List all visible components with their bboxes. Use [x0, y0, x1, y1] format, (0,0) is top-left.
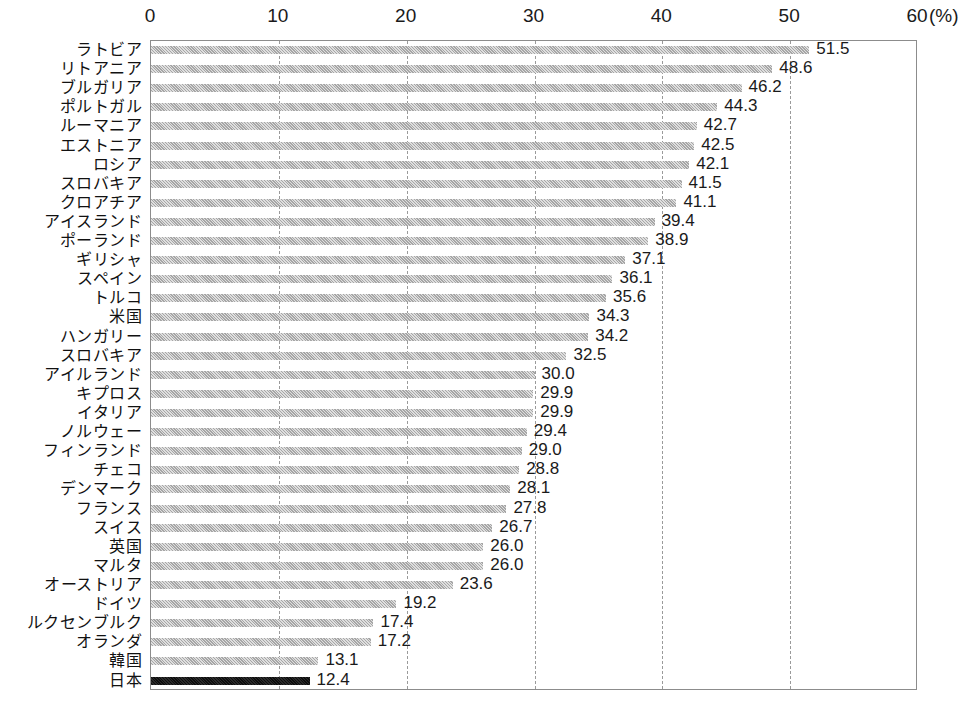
bar-value-label: 27.8 — [513, 498, 546, 518]
category-label: フィンランド — [0, 441, 142, 461]
bar-value-label: 34.3 — [596, 306, 629, 326]
bar-value-label: 26.0 — [490, 536, 523, 556]
category-label: イタリア — [0, 403, 142, 423]
bar — [151, 428, 527, 436]
bar-row: アイスランド39.4 — [0, 212, 971, 231]
bar-value-label: 44.3 — [724, 96, 757, 116]
x-axis-tick-label: 10 — [267, 6, 288, 26]
bar — [151, 65, 772, 73]
bar-row: オランダ17.2 — [0, 632, 971, 651]
x-axis-unit-label: (%) — [929, 6, 959, 26]
bar-value-label: 39.4 — [662, 211, 695, 231]
bar-value-label: 12.4 — [317, 670, 350, 690]
bar — [151, 485, 510, 493]
category-label: ルーマニア — [0, 116, 142, 136]
category-label: ハンガリー — [0, 327, 142, 347]
bar — [151, 619, 373, 627]
bar-value-label: 30.0 — [542, 364, 575, 384]
bar-row: デンマーク28.1 — [0, 479, 971, 498]
bar-row: ドイツ19.2 — [0, 594, 971, 613]
bar — [151, 294, 606, 302]
bar-value-label: 29.4 — [534, 421, 567, 441]
bar-value-label: 35.6 — [613, 287, 646, 307]
bar-value-label: 36.1 — [619, 268, 652, 288]
bar-row: ハンガリー34.2 — [0, 327, 971, 346]
category-label: 米国 — [0, 307, 142, 327]
category-label: アイルランド — [0, 365, 142, 385]
bar-value-label: 42.1 — [696, 154, 729, 174]
category-label: ブルガリア — [0, 78, 142, 98]
bar-row: 日本12.4 — [0, 671, 971, 690]
bar-row: ロシア42.1 — [0, 155, 971, 174]
bar-value-label: 38.9 — [655, 230, 688, 250]
bar-row: ルーマニア42.7 — [0, 116, 971, 135]
bar — [151, 677, 310, 685]
bar-value-label: 32.5 — [573, 345, 606, 365]
bar — [151, 657, 318, 665]
bar — [151, 390, 533, 398]
bar-value-label: 17.4 — [380, 612, 413, 632]
bar-value-label: 26.7 — [499, 517, 532, 537]
bar — [151, 103, 717, 111]
bar — [151, 543, 483, 551]
category-label: マルタ — [0, 556, 142, 576]
bar — [151, 638, 371, 646]
bar-row: ブルガリア46.2 — [0, 78, 971, 97]
category-label: デンマーク — [0, 479, 142, 499]
bar-row: マルタ26.0 — [0, 556, 971, 575]
category-label: チェコ — [0, 460, 142, 480]
bar-value-label: 29.9 — [540, 383, 573, 403]
category-label: オランダ — [0, 632, 142, 652]
category-label: 日本 — [0, 671, 142, 691]
category-label: ポルトガル — [0, 97, 142, 117]
bar — [151, 84, 742, 92]
bar — [151, 371, 535, 379]
bar-value-label: 28.8 — [526, 459, 559, 479]
bar-value-label: 29.9 — [540, 402, 573, 422]
bar-value-label: 34.2 — [595, 326, 628, 346]
category-label: ロシア — [0, 155, 142, 175]
bar-value-label: 51.5 — [816, 39, 849, 59]
bar-row: フランス27.8 — [0, 499, 971, 518]
x-axis-tick-label: 20 — [395, 6, 416, 26]
bar — [151, 46, 809, 54]
category-label: ポーランド — [0, 231, 142, 251]
bar-row: チェコ28.8 — [0, 460, 971, 479]
bar-value-label: 42.7 — [704, 115, 737, 135]
bar-row: 韓国13.1 — [0, 651, 971, 670]
bar-value-label: 48.6 — [779, 58, 812, 78]
bar-value-label: 41.1 — [683, 192, 716, 212]
bar-rows: ラトビア51.5リトアニア48.6ブルガリア46.2ポルトガル44.3ルーマニア… — [0, 40, 971, 690]
category-label: クロアチア — [0, 193, 142, 213]
bar-row: フィンランド29.0 — [0, 441, 971, 460]
bar — [151, 237, 648, 245]
horizontal-bar-chart: 0102030405060(%) ラトビア51.5リトアニア48.6ブルガリア4… — [0, 0, 971, 706]
category-label: フランス — [0, 499, 142, 519]
bar — [151, 581, 453, 589]
bar-row: リトアニア48.6 — [0, 59, 971, 78]
bar-row: スイス26.7 — [0, 518, 971, 537]
bar-row: ギリシャ37.1 — [0, 250, 971, 269]
category-label: アイスランド — [0, 212, 142, 232]
category-label: キプロス — [0, 384, 142, 404]
bar-value-label: 13.1 — [325, 650, 358, 670]
bar — [151, 600, 396, 608]
category-label: オーストリア — [0, 575, 142, 595]
category-label: スイス — [0, 518, 142, 538]
bar-row: スロバキア41.5 — [0, 174, 971, 193]
bar — [151, 466, 519, 474]
bar — [151, 218, 655, 226]
bar-row: ポルトガル44.3 — [0, 97, 971, 116]
bar-row: スロバキア32.5 — [0, 346, 971, 365]
bar-row: ポーランド38.9 — [0, 231, 971, 250]
bar — [151, 142, 694, 150]
bar-value-label: 28.1 — [517, 478, 550, 498]
category-label: ルクセンブルク — [0, 613, 142, 633]
bar-value-label: 29.0 — [529, 440, 562, 460]
bar — [151, 524, 492, 532]
bar-row: イタリア29.9 — [0, 403, 971, 422]
bar — [151, 180, 682, 188]
bar — [151, 199, 676, 207]
bar — [151, 313, 589, 321]
bar-value-label: 26.0 — [490, 555, 523, 575]
